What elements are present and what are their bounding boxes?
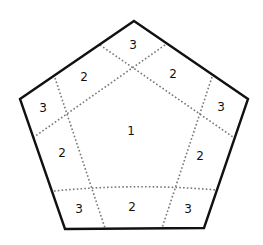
region-label-left-corner: 3 (39, 101, 47, 115)
region-label-lower-right-edge: 2 (196, 149, 204, 163)
region-label-bottom-left-corner: 3 (75, 202, 83, 216)
region-label-upper-right-edge: 2 (169, 67, 177, 81)
region-label-right-corner: 3 (217, 100, 225, 114)
dotted-line-e (54, 187, 217, 191)
region-label-center: 1 (127, 124, 135, 138)
pentagon-diagram: 1 3 2 2 3 3 2 2 3 2 3 (0, 0, 263, 245)
dotted-line-a (100, 45, 233, 137)
region-label-top-corner: 3 (129, 38, 137, 52)
region-label-upper-left-edge: 2 (80, 70, 88, 84)
diagram-canvas: 1 3 2 2 3 3 2 2 3 2 3 (0, 0, 263, 245)
region-label-lower-left-edge: 2 (58, 146, 66, 160)
region-label-bottom-edge: 2 (128, 200, 136, 214)
dotted-line-b (34, 45, 165, 137)
region-label-bottom-right-corner: 3 (184, 202, 192, 216)
